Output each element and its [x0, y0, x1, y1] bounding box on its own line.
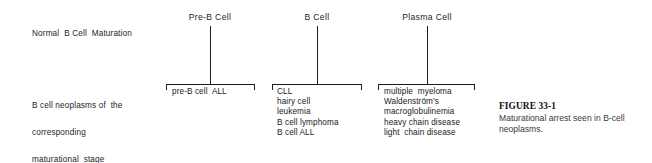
stage-stem-b-cell [317, 26, 318, 84]
neoplasm-list-plasma-cell: multiple myeloma Waldenström's macroglob… [384, 87, 460, 139]
figure-caption-title: FIGURE 33-1 [499, 101, 651, 111]
neoplasm-item: pre-B cell ALL [172, 87, 227, 97]
row-label-normal-maturation: Normal B Cell Maturation [32, 13, 132, 56]
row-label-normal-maturation-line-1: Normal B Cell Maturation [32, 29, 132, 40]
neoplasm-item: B cell lymphoma [277, 118, 339, 128]
figure-maturational-arrest: Normal B Cell Maturation B cell neoplasm… [0, 0, 652, 163]
neoplasm-item: heavy chain disease [384, 118, 460, 128]
neoplasm-item: hairy cell [277, 97, 339, 107]
neoplasm-item: Waldenström's [384, 97, 460, 107]
neoplasm-item: B cell ALL [277, 128, 339, 138]
neoplasm-item: macroglobulinemia [384, 107, 460, 117]
row-label-b-cell-neoplasms-line-1: B cell neoplasms of the [32, 101, 123, 112]
row-label-b-cell-neoplasms-line-2: corresponding [32, 128, 123, 139]
row-label-b-cell-neoplasms-line-3: maturational stage [32, 155, 123, 163]
stage-header-plasma-cell: Plasma Cell [377, 13, 477, 22]
stage-stem-pre-b-cell [210, 26, 211, 84]
neoplasm-item: light chain disease [384, 128, 460, 138]
figure-caption: FIGURE 33-1 Maturational arrest seen in … [499, 101, 651, 135]
row-label-b-cell-neoplasms: B cell neoplasms of the corresponding ma… [32, 85, 123, 163]
neoplasm-item: CLL [277, 87, 339, 97]
figure-caption-body: Maturational arrest seen in B-cell neopl… [499, 113, 651, 135]
stage-header-pre-b-cell: Pre-B Cell [160, 13, 260, 22]
neoplasm-list-pre-b-cell: pre-B cell ALL [172, 87, 227, 97]
stage-stem-plasma-cell [427, 26, 428, 84]
neoplasm-list-b-cell: CLL hairy cell leukemia B cell lymphoma … [277, 87, 339, 139]
stage-header-b-cell: B Cell [267, 13, 367, 22]
neoplasm-item: leukemia [277, 107, 339, 117]
neoplasm-item: multiple myeloma [384, 87, 460, 97]
